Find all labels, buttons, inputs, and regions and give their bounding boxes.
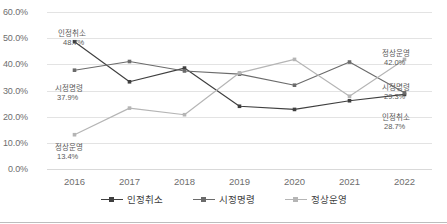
annotation-injeongchwiso-2016: 인정취소 48.7% — [58, 29, 86, 47]
annotation-injeongchwiso-2022: 인정취소 28.7% — [382, 113, 410, 131]
annotation-jeongsangunyeong-2016: 정상운영 13.4% — [55, 143, 83, 161]
bottom-divider — [0, 222, 447, 223]
gridline — [47, 117, 432, 118]
legend-item-sijeongmyeongryeong[interactable]: 시정명령 — [193, 192, 255, 206]
gridline — [47, 91, 432, 92]
chart-legend: 인정취소 시정명령 정상운영 — [0, 192, 447, 206]
annotation-label: 인정취소 — [382, 113, 410, 122]
x-axis-tick-2020: 2020 — [284, 176, 305, 187]
annotation-label: 정상운영 — [382, 49, 410, 58]
y-axis-tick-60: 60.0% — [0, 7, 28, 17]
legend-marker-icon — [101, 195, 123, 203]
legend-marker-icon — [285, 195, 307, 203]
legend-item-jeongsangunyeong[interactable]: 정상운영 — [285, 192, 347, 206]
legend-item-injeongchwiso[interactable]: 인정취소 — [101, 192, 163, 206]
gridline — [47, 64, 432, 65]
gridline — [47, 143, 432, 144]
annotation-value: 13.4% — [57, 152, 83, 161]
y-axis-tick-20: 20.0% — [0, 112, 28, 122]
annotation-value: 48.7% — [63, 38, 86, 47]
annotation-sijeongmyeongryeong-2022: 시정명령 29.3% — [382, 83, 410, 101]
y-axis-tick-10: 10.0% — [0, 138, 28, 148]
x-axis-tick-2021: 2021 — [339, 176, 360, 187]
x-axis-tick-2019: 2019 — [229, 176, 250, 187]
y-axis-tick-40: 40.0% — [0, 59, 28, 69]
plot-area — [47, 12, 432, 170]
x-axis-tick-2022: 2022 — [394, 176, 415, 187]
annotation-value: 28.7% — [384, 122, 410, 131]
legend-label: 정상운영 — [311, 192, 347, 206]
annotation-label: 시정명령 — [382, 83, 410, 92]
legend-label: 인정취소 — [127, 192, 163, 206]
annotation-label: 시정명령 — [55, 84, 83, 93]
annotation-label: 인정취소 — [58, 29, 86, 38]
annotation-value: 29.3% — [384, 92, 410, 101]
gridline — [47, 38, 432, 39]
gridline — [47, 12, 432, 13]
y-axis-tick-50: 50.0% — [0, 33, 28, 43]
x-axis-tick-2018: 2018 — [174, 176, 195, 187]
legend-marker-icon — [193, 195, 215, 203]
y-axis-tick-30: 30.0% — [0, 86, 28, 96]
x-axis-tick-2017: 2017 — [119, 176, 140, 187]
annotation-sijeongmyeongryeong-2016: 시정명령 37.9% — [55, 84, 83, 102]
legend-label: 시정명령 — [219, 192, 255, 206]
x-axis-line — [47, 169, 432, 170]
line-chart-figure: 60.0% 50.0% 40.0% 30.0% 20.0% 10.0% 0.0%… — [0, 0, 447, 224]
annotation-jeongsangunyeong-2022: 정상운영 42.0% — [382, 49, 410, 67]
y-axis-tick-0: 0.0% — [0, 164, 28, 174]
x-axis-tick-2016: 2016 — [64, 176, 85, 187]
annotation-value: 42.0% — [384, 58, 410, 67]
annotation-label: 정상운영 — [55, 143, 83, 152]
annotation-value: 37.9% — [57, 93, 83, 102]
